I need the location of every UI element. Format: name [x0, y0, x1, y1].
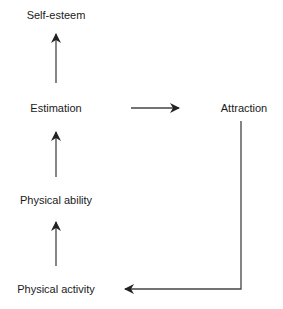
node-physical-activity: Physical activity [17, 283, 95, 296]
node-estimation: Estimation [30, 102, 81, 115]
node-physical-ability: Physical ability [20, 194, 92, 207]
diagram-edges [0, 0, 283, 309]
node-self-esteem: Self-esteem [27, 9, 86, 22]
diagram-canvas: Self-esteem Estimation Attraction Physic… [0, 0, 283, 309]
arrow-attraction-to-activity [125, 121, 241, 289]
node-attraction: Attraction [221, 102, 267, 115]
